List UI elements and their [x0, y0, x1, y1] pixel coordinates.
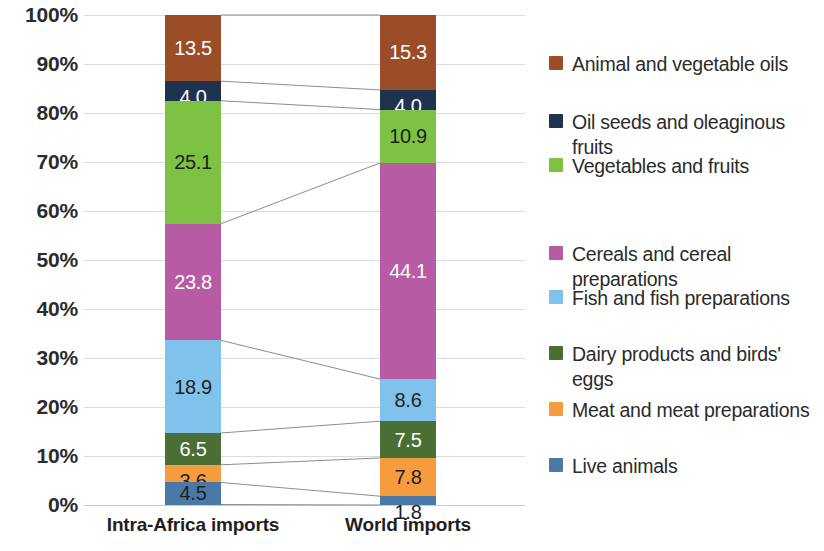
gridline — [84, 15, 525, 16]
y-axis-tick-label: 80% — [37, 101, 78, 125]
segment-value-label: 23.8 — [174, 272, 212, 292]
x-axis-category-label: World imports — [345, 514, 471, 536]
legend-item[interactable]: Live animals — [549, 454, 677, 479]
gridline — [84, 211, 525, 212]
y-axis-tick-label: 10% — [37, 444, 78, 468]
legend-item[interactable]: Fish and fish preparations — [549, 286, 790, 311]
segment-value-label: 15.3 — [389, 42, 427, 62]
gridline — [84, 456, 525, 457]
legend-item-label: Dairy products and birds' eggs — [572, 342, 820, 392]
bar-segment[interactable]: 10.9 — [380, 110, 436, 163]
legend-item[interactable]: Dairy products and birds' eggs — [549, 342, 820, 392]
legend-color-swatch-icon — [549, 56, 563, 70]
bar-segment[interactable]: 7.5 — [380, 421, 436, 458]
legend-item[interactable]: Meat and meat preparations — [549, 398, 809, 423]
bar-segment[interactable]: 23.8 — [165, 224, 221, 341]
legend-color-swatch-icon — [549, 346, 563, 360]
bar-segment[interactable]: 4.0 — [165, 81, 221, 101]
gridline — [84, 505, 525, 506]
bar-segment[interactable]: 13.5 — [165, 15, 221, 81]
bar-segment[interactable]: 7.8 — [380, 458, 436, 496]
segment-value-label: 10.9 — [389, 126, 427, 146]
legend-item[interactable]: Vegetables and fruits — [549, 154, 749, 179]
gridline — [84, 64, 525, 65]
legend-item-label: Cereals and cereal preparations — [572, 242, 820, 292]
y-axis-tick-label: 0% — [48, 493, 78, 517]
legend-item[interactable]: Cereals and cereal preparations — [549, 242, 820, 292]
segment-value-label: 25.1 — [174, 152, 212, 172]
y-axis-tick-label: 20% — [37, 395, 78, 419]
gridline — [84, 407, 525, 408]
y-axis-tick-label: 50% — [37, 248, 78, 272]
segment-value-label: 4.5 — [180, 483, 207, 503]
connector-line — [221, 340, 380, 379]
stacked-bar[interactable]: 13.54.025.123.818.96.53.64.5 — [165, 15, 221, 505]
legend-item-label: Animal and vegetable oils — [572, 52, 788, 77]
legend-color-swatch-icon — [549, 246, 563, 260]
bar-segment[interactable]: 44.1 — [380, 163, 436, 379]
gridline — [84, 162, 525, 163]
y-axis-tick-label: 100% — [25, 3, 78, 27]
stacked-bar-chart: 100%90%80%70%60%50%40%30%20%10%0% 13.54.… — [0, 0, 824, 551]
bar-segment[interactable]: 4.0 — [380, 90, 436, 110]
legend-item-label: Meat and meat preparations — [572, 398, 809, 423]
bar-segment[interactable]: 1.8 — [380, 496, 436, 505]
legend-color-swatch-icon — [549, 402, 563, 416]
legend-item-label: Live animals — [572, 454, 677, 479]
connector-line — [221, 482, 380, 496]
y-axis-tick-label: 90% — [37, 52, 78, 76]
legend-color-swatch-icon — [549, 290, 563, 304]
segment-value-label: 8.6 — [395, 390, 422, 410]
bar-segment[interactable]: 4.5 — [165, 482, 221, 504]
connector-line — [221, 163, 380, 224]
legend-item[interactable]: Oil seeds and oleaginous fruits — [549, 110, 820, 160]
segment-value-label: 7.5 — [395, 430, 422, 450]
legend-item[interactable]: Animal and vegetable oils — [549, 52, 788, 77]
legend-item-label: Fish and fish preparations — [572, 286, 790, 311]
connector-line — [221, 458, 380, 465]
segment-value-label: 13.5 — [174, 38, 212, 58]
connector-line — [221, 101, 380, 110]
segment-value-label: 44.1 — [389, 261, 427, 281]
y-axis-tick-label: 60% — [37, 199, 78, 223]
gridline — [84, 358, 525, 359]
bar-segment[interactable]: 3.6 — [165, 465, 221, 483]
gridline — [84, 309, 525, 310]
legend-color-swatch-icon — [549, 458, 563, 472]
stacked-bar[interactable]: 15.34.010.944.18.67.57.81.8 — [380, 15, 436, 505]
bar-segment[interactable]: 18.9 — [165, 340, 221, 433]
legend-color-swatch-icon — [549, 114, 563, 128]
bar-segment[interactable]: 25.1 — [165, 101, 221, 224]
plot-area: 13.54.025.123.818.96.53.64.515.34.010.94… — [84, 15, 525, 505]
y-axis-tick-label: 40% — [37, 297, 78, 321]
x-axis-category-label: Intra-Africa imports — [107, 514, 279, 536]
y-axis-tick-label: 70% — [37, 150, 78, 174]
bar-segment[interactable]: 15.3 — [380, 15, 436, 90]
connector-line — [221, 421, 380, 433]
y-axis-tick-label: 30% — [37, 346, 78, 370]
legend-item-label: Vegetables and fruits — [572, 154, 749, 179]
connector-line — [221, 81, 380, 90]
legend-color-swatch-icon — [549, 158, 563, 172]
gridline — [84, 113, 525, 114]
segment-value-label: 7.8 — [395, 467, 422, 487]
gridline — [84, 260, 525, 261]
segment-value-label: 18.9 — [174, 377, 212, 397]
segment-value-label: 6.5 — [180, 439, 207, 459]
bar-segment[interactable]: 8.6 — [380, 379, 436, 421]
bar-segment[interactable]: 6.5 — [165, 433, 221, 465]
y-axis: 100%90%80%70%60%50%40%30%20%10%0% — [0, 0, 84, 551]
legend-item-label: Oil seeds and oleaginous fruits — [572, 110, 820, 160]
x-axis-labels: Intra-Africa importsWorld imports — [84, 514, 525, 548]
